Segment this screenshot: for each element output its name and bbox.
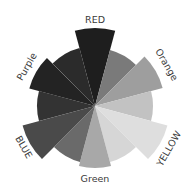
- polar-rose-chart: REDOrangeYELLOWGreenBLUEPurple: [0, 0, 187, 192]
- chart-wedges: [23, 28, 168, 168]
- label-green: Green: [81, 173, 110, 184]
- label-red: RED: [85, 14, 105, 25]
